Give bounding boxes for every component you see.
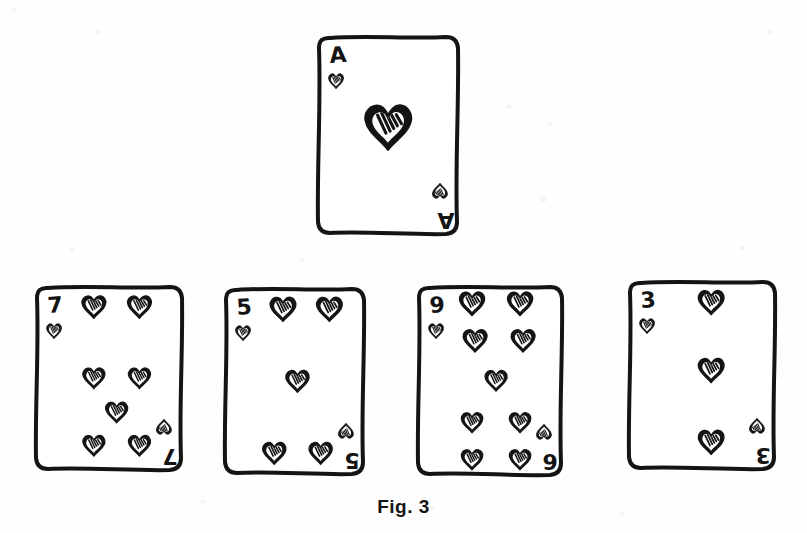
card-rank-top-left: 7: [47, 292, 64, 318]
playing-card-7-hearts[interactable]: 77: [33, 283, 185, 473]
scan-speckle: [768, 30, 773, 34]
card-face: 33: [626, 278, 778, 472]
scan-speckle: [540, 196, 547, 202]
scan-speckle: [506, 104, 512, 109]
card-face: 55: [222, 285, 367, 477]
figure-caption: Fig. 3: [0, 496, 807, 518]
scan-speckle: [12, 8, 17, 12]
card-rank-top-left: 3: [640, 287, 657, 313]
scan-speckle: [300, 258, 305, 262]
scan-speckle: [740, 246, 745, 250]
card-face: AA: [315, 33, 461, 237]
card-rank-bottom-right: 6: [542, 449, 557, 474]
card-rank-bottom-right: A: [437, 208, 454, 233]
card-rank-bottom-right: 7: [162, 444, 177, 469]
card-rank-bottom-right: 3: [755, 443, 770, 468]
playing-card-a-hearts[interactable]: AA: [315, 33, 461, 237]
scan-speckle: [70, 248, 74, 252]
card-rank-top-left: A: [329, 42, 348, 68]
card-rank-top-left: 9: [429, 292, 446, 318]
playing-card-3-hearts[interactable]: 33: [626, 278, 778, 472]
scan-speckle: [548, 122, 553, 126]
card-face: 96: [415, 283, 565, 478]
scan-speckle: [96, 30, 100, 34]
playing-card-9-hearts[interactable]: 96: [415, 283, 565, 478]
card-rank-top-left: 5: [236, 294, 253, 320]
figure-container: AA77559633 Fig. 3: [0, 0, 807, 533]
card-face: 77: [33, 283, 185, 473]
card-rank-bottom-right: 5: [344, 448, 359, 473]
playing-card-5-hearts[interactable]: 55: [222, 285, 367, 477]
